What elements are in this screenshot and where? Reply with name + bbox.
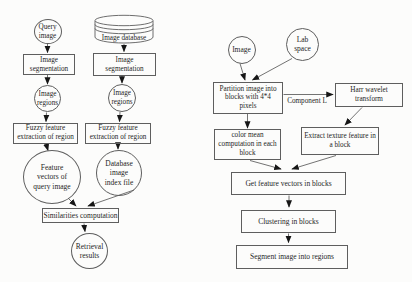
- arrow-regions-to-fuzzy-right: [120, 112, 121, 122]
- arrow-image-to-partition: [240, 64, 245, 81]
- node-database-index-file: Database image index file: [96, 150, 142, 196]
- node-label: Partition image into blocks with 4*4 pix…: [219, 85, 276, 111]
- node-label: Harr wavelet transform: [350, 86, 387, 104]
- node-label: Image database: [94, 35, 154, 42]
- node-label: color mean computation in each block: [218, 131, 276, 157]
- node-label: Image segmentation: [30, 56, 68, 74]
- node-partition-blocks: Partition image into blocks with 4*4 pix…: [213, 82, 283, 114]
- node-image: Image: [228, 36, 256, 64]
- arrow-color-mean-to-get-features: [250, 161, 281, 170]
- node-label: Get feature vectors in blocks: [245, 179, 331, 188]
- node-image-database-cylinder: Image database: [94, 14, 154, 44]
- node-segment-regions: Segment image into regions: [236, 245, 348, 269]
- node-label: Fuzzy feature extraction of region: [17, 124, 74, 142]
- node-color-mean: color mean computation in each block: [214, 129, 281, 160]
- arrow-regions-to-fuzzy-left: [46, 113, 47, 122]
- node-image-segmentation-right: Image segmentation: [93, 53, 156, 76]
- node-label: Feature vectors of query image: [33, 163, 70, 190]
- node-label: Image: [232, 45, 251, 54]
- node-label: Image regions: [111, 89, 132, 107]
- node-image-regions-right: Image regions: [108, 84, 136, 112]
- flowchart-canvas: Query image Image database Image segment…: [0, 0, 412, 282]
- node-query-image: Query image: [34, 19, 62, 44]
- node-fuzzy-feature-right: Fuzzy feature extraction of region: [85, 123, 151, 144]
- node-label: Image segmentation: [105, 56, 143, 74]
- node-retrieval-results: Retrieval results: [71, 233, 108, 269]
- node-harr-wavelet: Harr wavelet transform: [335, 83, 403, 107]
- node-label: Segment image into regions: [250, 252, 334, 261]
- node-image-segmentation-left: Image segmentation: [23, 54, 75, 75]
- node-label: Lab space: [294, 35, 311, 53]
- node-label: Extract texture feature in a block: [304, 132, 376, 150]
- node-image-regions-left: Image regions: [34, 85, 61, 112]
- node-lab-space: Lab space: [286, 28, 319, 61]
- component-l-edge-label: Component L: [284, 98, 330, 106]
- arrow-similarities-to-retrieval: [84, 224, 85, 232]
- arrow-feature-vectors-to-similarities: [68, 198, 76, 206]
- node-label: Database image index file: [105, 159, 134, 186]
- node-similarities-computation: Similarities computation: [42, 208, 119, 223]
- node-label: Similarities computation: [44, 211, 118, 220]
- node-label: Clustering in blocks: [258, 217, 318, 226]
- node-label: Image regions: [37, 90, 58, 108]
- node-feature-vectors: Feature vectors of query image: [23, 150, 81, 204]
- arrow-lab-space-to-partition: [253, 59, 293, 81]
- node-extract-texture: Extract texture feature in a block: [301, 127, 379, 155]
- node-clustering: Clustering in blocks: [241, 210, 336, 233]
- node-label: Retrieval results: [76, 242, 104, 260]
- node-get-feature-vectors: Get feature vectors in blocks: [231, 172, 346, 195]
- node-fuzzy-feature-left: Fuzzy feature extraction of region: [13, 123, 78, 144]
- node-label: Query image: [39, 23, 57, 41]
- arrow-extract-to-get-features: [292, 156, 336, 170]
- node-label: Fuzzy feature extraction of region: [90, 124, 147, 142]
- arrow-harr-to-extract: [345, 108, 362, 126]
